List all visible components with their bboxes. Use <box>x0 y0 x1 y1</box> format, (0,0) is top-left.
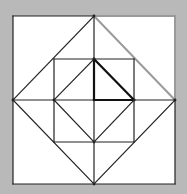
inner-top-vertex <box>93 58 96 61</box>
right-mid-vertex <box>174 99 177 102</box>
inner-right-vertex <box>133 99 136 102</box>
diagram-canvas <box>0 0 187 194</box>
left-mid-vertex <box>12 99 15 102</box>
inner-left-vertex <box>53 99 56 102</box>
inner-bottom-vertex <box>93 141 96 144</box>
geometric-figure <box>0 0 187 194</box>
top-mid-vertex <box>93 15 96 18</box>
bottom-mid-vertex <box>93 183 96 186</box>
